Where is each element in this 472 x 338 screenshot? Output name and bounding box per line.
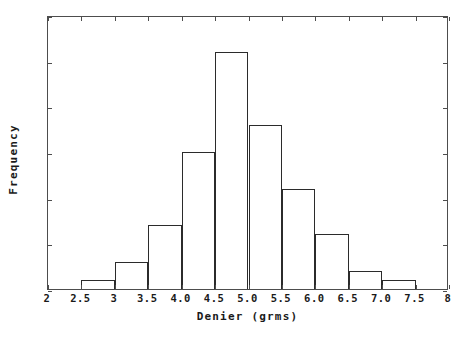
y-axis-title: Frequency [7, 100, 20, 220]
histogram-figure: 22.533.54.04.55.05.56.06.57.07.58 051015… [0, 0, 472, 338]
x-axis-title: Denier (grms) [47, 310, 448, 323]
y-axis-tick-labels: 051015202530 [0, 0, 472, 338]
